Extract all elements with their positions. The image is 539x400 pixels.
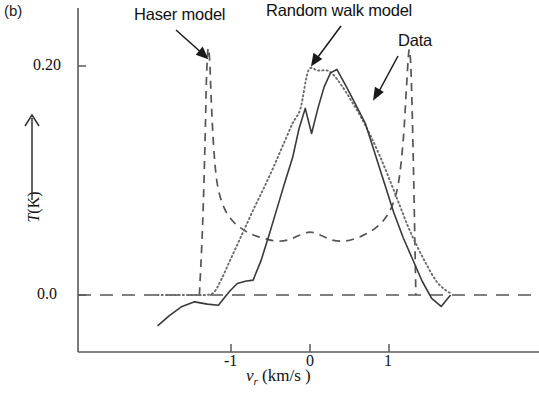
- annotation-arrows: [176, 26, 398, 99]
- series-data: [158, 69, 451, 325]
- arrow-haser-model: [176, 30, 207, 58]
- x-axis-title-subscript: r: [254, 375, 258, 387]
- x-axis-ticks: [231, 344, 389, 352]
- x-axis-title-symbol: v: [246, 366, 254, 385]
- x-tick-label-minus-1: -1: [224, 352, 237, 370]
- y-tick-label-0-20: 0.20: [33, 56, 61, 74]
- annotation-label-haser-model: Haser model: [134, 5, 225, 24]
- y-tick-label-0-0: 0.0: [37, 285, 57, 303]
- y-axis-ticks: [78, 66, 86, 295]
- annotation-label-data: Data: [398, 31, 432, 50]
- annotation-label-random-walk-model: Random walk model: [266, 1, 412, 20]
- figure-panel-b: (b): [0, 0, 539, 400]
- arrow-data: [374, 56, 398, 99]
- y-axis-title-symbol: T: [25, 214, 42, 223]
- chart-plot-area: [0, 0, 539, 400]
- y-axis-direction-arrow: [20, 110, 44, 202]
- arrow-random-walk-model: [312, 26, 341, 65]
- x-axis-title-unit: (km/s ): [262, 366, 311, 385]
- x-tick-label-1: 1: [384, 352, 392, 370]
- x-axis-title: vr (km/s ): [246, 366, 311, 387]
